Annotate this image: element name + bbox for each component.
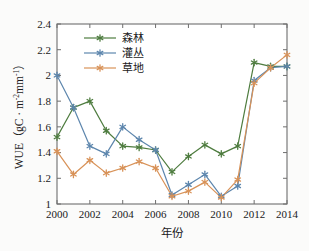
x-tick-label: 2004 [112, 208, 135, 220]
chart-figure: 11.21.41.61.822.22.4 2000200220042006200… [0, 0, 309, 251]
x-tick-label: 2012 [243, 208, 265, 220]
legend-label-草地: 草地 [122, 62, 144, 74]
y-tick-label: 1.6 [37, 121, 51, 133]
x-axis-title: 年份 [161, 226, 184, 239]
y-tick-label: 1.8 [37, 95, 51, 107]
y-axis-title-suffix: ） [13, 59, 25, 70]
y-tick-label: 2 [46, 69, 52, 81]
y-tick-label: 2.2 [37, 44, 51, 56]
x-tick-label: 2010 [210, 208, 233, 220]
y-tick-label: 1.2 [37, 172, 51, 184]
x-tick-label: 2006 [145, 208, 168, 220]
x-tick-label: 2000 [46, 208, 69, 220]
legend: 森林灌丛草地 [84, 31, 144, 74]
y-axis-title-mid: mm [13, 76, 25, 94]
y-tick-label: 1.4 [37, 146, 51, 158]
line-chart: 11.21.41.61.822.22.4 2000200220042006200… [0, 0, 309, 251]
x-tick-label: 2008 [177, 208, 200, 220]
legend-label-森林: 森林 [122, 31, 144, 44]
x-tick-label: 2002 [79, 208, 101, 220]
legend-label-灌丛: 灌丛 [122, 47, 144, 59]
plot-area-background [57, 24, 287, 204]
x-tick-label: 2014 [276, 208, 299, 220]
y-tick-label: 2.4 [37, 18, 51, 30]
y-axis-title-prefix: WUE（gC · m [13, 100, 26, 169]
